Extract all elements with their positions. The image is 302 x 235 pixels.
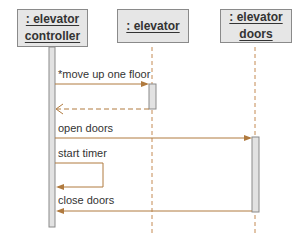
message-label-open-doors: open doors (58, 122, 113, 134)
arrowhead-icon (56, 208, 64, 214)
arrowhead-icon (244, 135, 252, 141)
lifeline-label-line2: doors (239, 26, 272, 43)
activation-bar-doors (252, 137, 259, 212)
message-label-move-up: *move up one floor (58, 68, 150, 80)
lifeline-box-controller: : elevator controller (17, 9, 88, 47)
message-label-start-timer: start timer (58, 147, 107, 159)
arrowhead-icon (56, 184, 64, 190)
sequence-diagram: : elevator controller : elevator : eleva… (0, 0, 302, 235)
lifeline-label-line1: : elevator (126, 18, 179, 35)
lifeline-label-line2: controller (25, 28, 80, 45)
lifeline-box-elevator: : elevator (117, 9, 189, 43)
lifeline-label-line1: : elevator (26, 11, 79, 28)
lifeline-label-line1: : elevator (229, 9, 282, 26)
lifeline-box-doors: : elevator doors (220, 9, 292, 43)
arrowhead-icon (141, 81, 149, 87)
message-arrow-start-timer (55, 163, 103, 187)
activation-bar-controller (49, 47, 55, 227)
message-label-close-doors: close doors (58, 194, 114, 206)
activation-bar-elevator (149, 84, 156, 109)
